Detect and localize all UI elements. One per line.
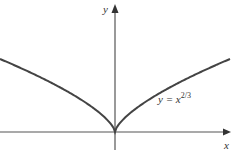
graph: y x y = x2/3 bbox=[0, 0, 235, 152]
x-axis-label: x bbox=[223, 139, 229, 151]
curve-equation-exponent: 2/3 bbox=[181, 91, 191, 100]
x-axis-arrow-icon bbox=[223, 129, 231, 136]
y-axis-label: y bbox=[102, 3, 108, 15]
curve-equation-label: y = x2/3 bbox=[157, 91, 191, 105]
y-axis-arrow-icon bbox=[112, 4, 119, 13]
curve-equation-base: y = x bbox=[157, 93, 181, 105]
